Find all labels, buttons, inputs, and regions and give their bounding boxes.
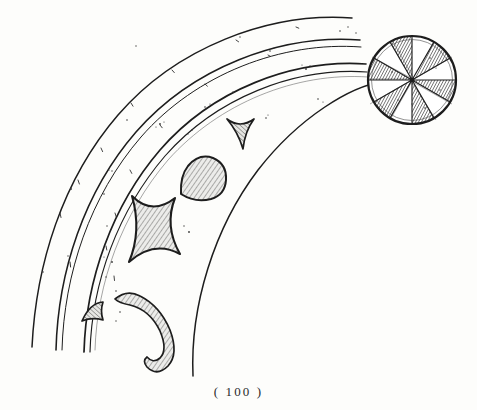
ornament-plate-drawing [0,0,477,410]
radial-rosette [368,36,456,124]
rosette-hub [410,78,415,83]
plate-figure: ( 100 ) [0,0,477,410]
page-number-caption: ( 100 ) [214,384,263,399]
caption: ( 100 ) [0,382,477,400]
